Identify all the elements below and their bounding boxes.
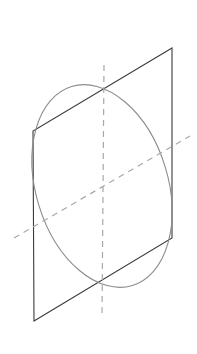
figure-canvas: Circle inscribed in a plane shown in obl…: [0, 0, 197, 354]
geometry-diagram: Circle inscribed in a plane shown in obl…: [0, 0, 197, 354]
